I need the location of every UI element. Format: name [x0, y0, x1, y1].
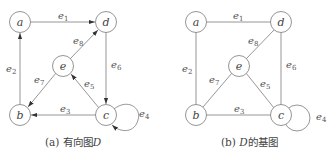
edge-label-e8: e8: [248, 35, 258, 48]
node-label-b: b: [16, 109, 23, 122]
node-label-c: c: [278, 109, 284, 122]
edge-label-e5: e5: [84, 78, 94, 91]
node-label-d: d: [102, 16, 109, 29]
node-label-e: e: [236, 60, 243, 73]
caption-suffix: 的基图: [248, 136, 278, 148]
edge-label-e6: e6: [286, 59, 297, 72]
node-label-e: e: [60, 60, 67, 73]
caption-variable: D: [239, 136, 247, 148]
node-label-a: a: [17, 16, 24, 29]
directed-graph-d: a d b c e e1 e2 e3 e4 e5 e6 e7 e8: [6, 10, 150, 131]
edge-label-e4: e4: [139, 108, 150, 121]
node-label-a: a: [193, 16, 200, 29]
edge-label-e2: e2: [6, 63, 16, 76]
node-label-c: c: [103, 109, 109, 122]
edge-label-e7: e7: [34, 74, 44, 87]
node-label-b: b: [192, 109, 199, 122]
undirected-base-graph: a d b c e e1 e2 e3 e4 e5 e6 e7 e8: [182, 10, 327, 131]
edge-label-e7: e7: [209, 74, 219, 87]
caption-text: (a) 有向图: [45, 136, 93, 148]
edge-label-e3: e3: [60, 103, 70, 116]
edge-label-e3: e3: [234, 103, 244, 116]
node-label-d: d: [277, 16, 284, 29]
edge-label-e1: e1: [233, 10, 243, 23]
caption-variable: D: [93, 136, 101, 148]
edge-label-e8: e8: [73, 35, 83, 48]
edge-label-e1: e1: [58, 10, 68, 23]
caption-base-graph: (b) D的基图: [221, 134, 278, 149]
edge-label-e4: e4: [316, 111, 327, 124]
edge-label-e2: e2: [182, 63, 192, 76]
caption-directed-graph: (a) 有向图D: [45, 134, 101, 149]
caption-text: (b): [221, 136, 239, 148]
edge-label-e5: e5: [260, 78, 270, 91]
edge-label-e6: e6: [111, 59, 122, 72]
